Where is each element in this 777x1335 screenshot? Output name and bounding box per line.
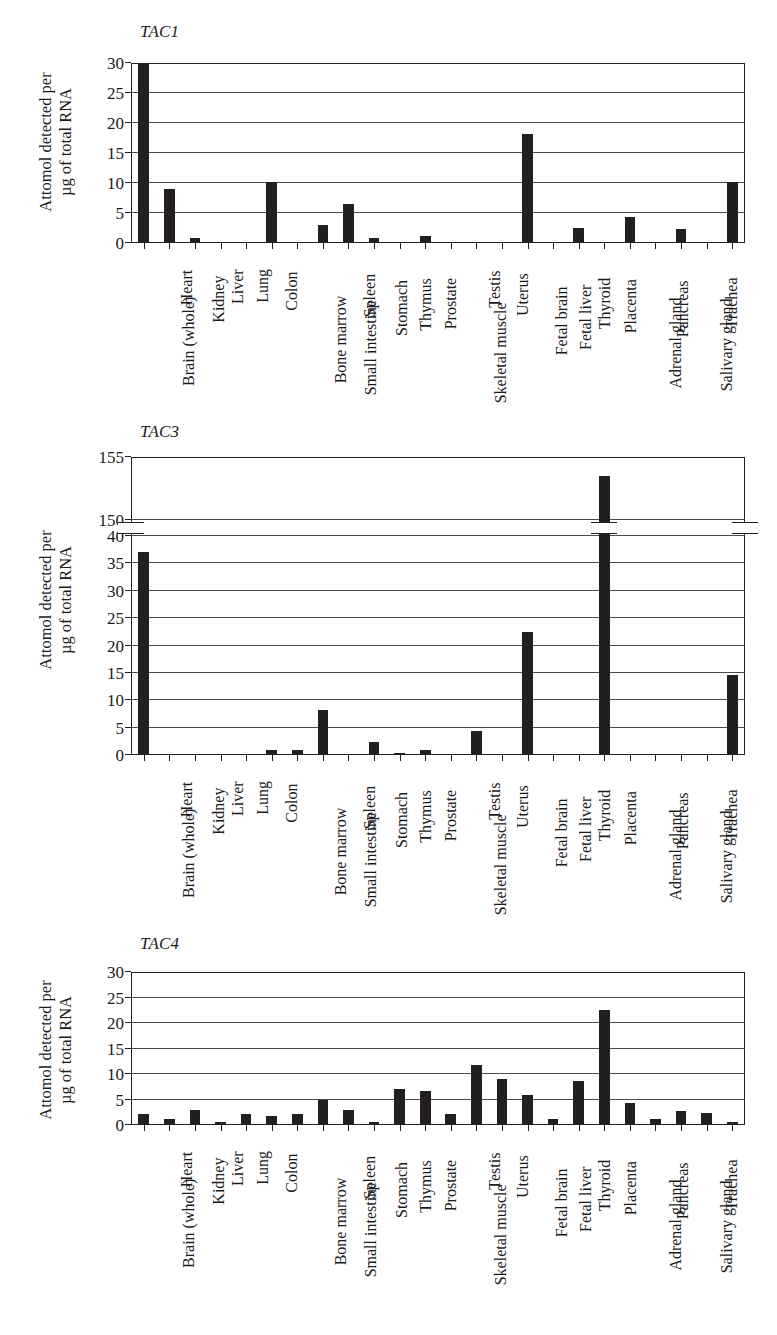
bar [292, 1114, 303, 1125]
y-axis-tick-mark [125, 62, 131, 63]
y-axis-tick-label: 20 [107, 637, 131, 654]
x-axis-tick-mark [195, 755, 196, 761]
x-axis-tick-mark [451, 1125, 452, 1131]
y-axis-tick-mark [125, 456, 131, 457]
y-axis-tick-label: 30 [107, 55, 131, 72]
bar [548, 754, 559, 755]
bar [215, 242, 226, 243]
x-axis-tick-mark [348, 1125, 349, 1131]
x-axis-tick-mark [630, 1125, 631, 1131]
bar [445, 754, 456, 755]
gridline [131, 562, 745, 563]
y-axis-tick-label: 15 [107, 145, 131, 162]
bar [266, 182, 277, 243]
x-axis-category-label: Heart [179, 270, 195, 306]
bar [164, 754, 175, 755]
x-axis-tick-mark [502, 755, 503, 761]
gridline [131, 727, 745, 728]
plot-area-tac1: 051015202530 [131, 63, 745, 243]
y-axis-tick-label: 20 [107, 1015, 131, 1032]
plot-frame-tac4 [131, 972, 745, 1125]
x-axis-tick-mark [655, 1125, 656, 1131]
figure-tac-expression-panels: TAC1 Attomol detected per µg of total RN… [0, 0, 777, 1335]
x-axis-category-label: Fetal liver [578, 797, 594, 862]
x-axis-tick-mark [169, 755, 170, 761]
bar [676, 229, 687, 243]
y-axis-tick-label: 20 [107, 115, 131, 132]
x-axis-tick-mark [630, 243, 631, 249]
gridline [131, 699, 745, 700]
bar [701, 754, 712, 755]
gridline [131, 212, 745, 213]
gridline [131, 1048, 745, 1049]
x-axis-category-label: Bone marrow [333, 296, 349, 384]
x-axis-category-label: Pancreas [676, 1162, 692, 1219]
x-axis-tick-mark [246, 243, 247, 249]
y-axis-tick-mark [125, 92, 131, 93]
gridline [131, 997, 745, 998]
x-axis-tick-mark [630, 755, 631, 761]
bar [420, 750, 431, 755]
x-axis-category-label: Heart [179, 782, 195, 818]
x-axis-category-label: Thymus [418, 278, 434, 330]
y-axis-tick-label: 25 [107, 610, 131, 627]
bar [445, 242, 456, 243]
bar [318, 225, 329, 243]
y-axis-title-line1: Attomol detected per [36, 950, 56, 1150]
x-axis-category-label: Pancreas [676, 792, 692, 849]
x-axis-tick-mark [400, 755, 401, 761]
x-axis-category-label: Colon [283, 784, 299, 823]
bar [241, 1114, 252, 1125]
bar [727, 675, 738, 755]
y-axis-tick-mark [125, 1124, 131, 1125]
x-axis-tick-mark [246, 755, 247, 761]
y-axis-tick-mark [125, 1048, 131, 1049]
x-axis-tick-mark [246, 1125, 247, 1131]
bar [164, 189, 175, 243]
x-axis-category-label: Testis [487, 1153, 503, 1190]
y-axis-tick-mark [125, 122, 131, 123]
gridline [131, 1022, 745, 1023]
x-axis-category-label: Uterus [515, 273, 531, 316]
x-axis-category-label: Lung [255, 1151, 271, 1185]
x-axis-category-label: Thyroid [596, 1160, 612, 1212]
x-axis-tick-mark [732, 755, 733, 761]
bar [625, 1103, 636, 1125]
x-axis-category-label: Placenta [623, 791, 639, 845]
bar [650, 242, 661, 243]
x-axis-category-label: Thymus [418, 790, 434, 842]
y-axis-title-tac1: Attomol detected per µg of total RNA [36, 42, 76, 242]
chart-title-tac1: TAC1 [140, 22, 179, 42]
x-axis-tick-mark [528, 243, 529, 249]
y-axis-tick-mark [125, 242, 131, 243]
x-axis-tick-mark [528, 755, 529, 761]
bar [420, 236, 431, 243]
x-axis-tick-mark [374, 243, 375, 249]
bar [369, 1122, 380, 1125]
x-axis-category-label: Uterus [515, 1155, 531, 1198]
bar [318, 1100, 329, 1125]
y-axis-tick-label: 15 [107, 1040, 131, 1057]
x-axis-tick-mark [272, 243, 273, 249]
x-axis-tick-mark [374, 1125, 375, 1131]
bar [241, 754, 252, 755]
x-axis-tick-mark [400, 1125, 401, 1131]
x-axis-tick-mark [553, 243, 554, 249]
bar [625, 754, 636, 755]
y-axis-tick-mark [125, 672, 131, 673]
x-axis-category-label: Fetal brain [554, 798, 570, 867]
y-axis-tick-label: 35 [107, 555, 131, 572]
x-axis-tick-mark [272, 755, 273, 761]
bar [471, 242, 482, 244]
bar [394, 242, 405, 243]
y-axis-tick-label: 25 [107, 989, 131, 1006]
y-axis-tick-label: 5 [116, 719, 132, 736]
x-axis-tick-mark [528, 1125, 529, 1131]
x-axis-tick-mark [476, 1125, 477, 1131]
y-axis-tick-label: 30 [107, 964, 131, 981]
gridline [131, 645, 745, 646]
bar [292, 750, 303, 755]
x-axis-category-label: Kidney [211, 1158, 227, 1205]
x-axis-tick-mark [502, 243, 503, 249]
x-axis-tick-mark [579, 1125, 580, 1131]
